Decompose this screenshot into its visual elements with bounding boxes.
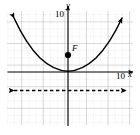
- grid: [7, 11, 134, 126]
- x-axis-tick-label: 10: [116, 72, 125, 81]
- y-axis-label: y: [66, 1, 70, 10]
- focus-label: F: [72, 44, 78, 53]
- x-axis-label: x: [128, 70, 132, 79]
- focus-point: [65, 52, 71, 58]
- parabola-figure: y 10 x 10 F: [0, 0, 140, 135]
- graph-canvas: [0, 0, 140, 135]
- y-axis-tick-label: 10: [55, 10, 64, 19]
